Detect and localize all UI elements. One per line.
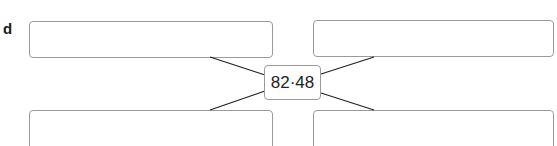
connector-top-left — [210, 57, 265, 75]
connector-bottom-right — [321, 93, 374, 110]
center-value-box: 82·48 — [264, 65, 321, 100]
center-value: 82·48 — [271, 73, 314, 93]
connector-top-right — [321, 57, 374, 74]
connector-bottom-left — [210, 91, 265, 110]
